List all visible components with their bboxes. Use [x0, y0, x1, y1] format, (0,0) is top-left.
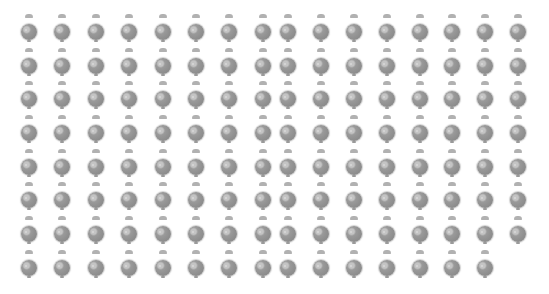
cap-icon — [259, 149, 267, 153]
cap-icon — [125, 115, 133, 119]
cap-icon — [25, 14, 33, 18]
sprite-item — [52, 250, 72, 280]
cap-icon — [284, 250, 292, 254]
cap-icon — [514, 216, 522, 220]
cap-icon — [259, 182, 267, 186]
gray-ball-icon — [88, 192, 104, 208]
cap-icon — [259, 48, 267, 52]
sprite-item — [344, 182, 364, 212]
cap-icon — [225, 14, 233, 18]
gray-ball-icon — [188, 260, 204, 276]
gray-ball-icon — [188, 226, 204, 242]
sprite-item — [253, 182, 273, 212]
cap-icon — [284, 216, 292, 220]
cap-icon — [192, 182, 200, 186]
cap-icon — [25, 182, 33, 186]
gray-ball-icon — [21, 91, 37, 107]
sprite-item — [442, 48, 462, 78]
gray-ball-icon — [444, 58, 460, 74]
cap-icon — [350, 14, 358, 18]
sprite-item — [311, 81, 331, 111]
cap-icon — [481, 250, 489, 254]
gray-ball-icon — [379, 159, 395, 175]
cap-icon — [481, 81, 489, 85]
gray-ball-icon — [412, 125, 428, 141]
sprite-item — [19, 48, 39, 78]
gray-ball-icon — [280, 226, 296, 242]
cap-icon — [225, 250, 233, 254]
cap-icon — [58, 48, 66, 52]
cap-icon — [383, 216, 391, 220]
gray-ball-icon — [188, 24, 204, 40]
cap-icon — [92, 115, 100, 119]
sprite-item — [410, 216, 430, 246]
gray-ball-icon — [221, 192, 237, 208]
sprite-item — [344, 81, 364, 111]
gray-ball-icon — [221, 260, 237, 276]
cap-icon — [58, 81, 66, 85]
sprite-item — [410, 14, 430, 44]
gray-ball-icon — [155, 226, 171, 242]
sprite-item — [219, 115, 239, 145]
sprite-item — [52, 216, 72, 246]
gray-ball-icon — [510, 226, 526, 242]
gray-ball-icon — [510, 125, 526, 141]
sprite-item — [311, 250, 331, 280]
cap-icon — [92, 250, 100, 254]
gray-ball-icon — [444, 125, 460, 141]
gray-ball-icon — [412, 91, 428, 107]
sprite-item — [344, 48, 364, 78]
cap-icon — [514, 182, 522, 186]
cap-icon — [514, 115, 522, 119]
gray-ball-icon — [155, 125, 171, 141]
sprite-item — [186, 149, 206, 179]
sprite-item — [508, 182, 528, 212]
sprite-item — [186, 48, 206, 78]
gray-ball-icon — [477, 58, 493, 74]
gray-ball-icon — [379, 24, 395, 40]
gray-ball-icon — [221, 58, 237, 74]
sprite-item — [219, 182, 239, 212]
sprite-item — [278, 81, 298, 111]
cap-icon — [383, 149, 391, 153]
sprite-item — [153, 250, 173, 280]
gray-ball-icon — [444, 260, 460, 276]
sprite-item — [311, 115, 331, 145]
gray-ball-icon — [313, 260, 329, 276]
gray-ball-icon — [280, 125, 296, 141]
gray-ball-icon — [21, 125, 37, 141]
gray-ball-icon — [280, 192, 296, 208]
gray-ball-icon — [121, 226, 137, 242]
cap-icon — [416, 216, 424, 220]
sprite-item — [410, 115, 430, 145]
cap-icon — [159, 182, 167, 186]
cap-icon — [383, 48, 391, 52]
gray-ball-icon — [155, 260, 171, 276]
sprite-item — [410, 149, 430, 179]
gray-ball-icon — [21, 192, 37, 208]
gray-ball-icon — [313, 91, 329, 107]
cap-icon — [92, 14, 100, 18]
gray-ball-icon — [54, 226, 70, 242]
cap-icon — [58, 182, 66, 186]
gray-ball-icon — [510, 58, 526, 74]
gray-ball-icon — [188, 91, 204, 107]
gray-ball-icon — [412, 58, 428, 74]
gray-ball-icon — [21, 24, 37, 40]
sprite-item — [311, 48, 331, 78]
gray-ball-icon — [255, 159, 271, 175]
gray-ball-icon — [510, 91, 526, 107]
cap-icon — [317, 115, 325, 119]
cap-icon — [192, 14, 200, 18]
cap-icon — [125, 216, 133, 220]
gray-ball-icon — [121, 192, 137, 208]
cap-icon — [350, 216, 358, 220]
sprite-item — [278, 115, 298, 145]
gray-ball-icon — [88, 24, 104, 40]
sprite-item — [410, 81, 430, 111]
cap-icon — [481, 149, 489, 153]
cap-icon — [192, 48, 200, 52]
cap-icon — [383, 14, 391, 18]
gray-ball-icon — [477, 260, 493, 276]
sprite-item — [344, 115, 364, 145]
